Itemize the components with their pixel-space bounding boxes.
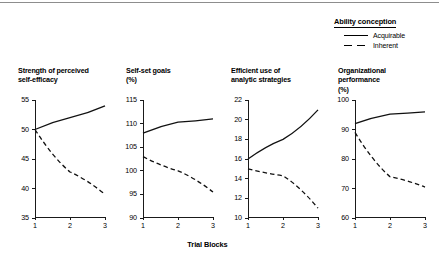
x-tick-label: 1 bbox=[348, 221, 362, 230]
y-tick-label: 60 bbox=[323, 213, 349, 222]
panel-title-line1: Strength of perceived bbox=[18, 66, 114, 75]
x-axis-title-text: Trial Blocks bbox=[187, 240, 227, 249]
panel-self-efficacy: Strength of perceived self-efficacy 3540… bbox=[0, 0, 110, 262]
y-tick-label: 105 bbox=[111, 142, 137, 151]
line-inherent bbox=[248, 169, 318, 208]
y-tick-label: 100 bbox=[111, 166, 137, 175]
panel-title-line1: Organizational bbox=[338, 66, 434, 75]
x-tick-label: 1 bbox=[241, 221, 255, 230]
x-tick-label: 2 bbox=[383, 221, 397, 230]
y-tick-label: 14 bbox=[216, 174, 242, 183]
panel-title-line2: (%) bbox=[126, 75, 222, 84]
line-acquirable bbox=[143, 119, 213, 133]
x-tick-label: 2 bbox=[276, 221, 290, 230]
y-tick-label: 35 bbox=[3, 213, 29, 222]
panel-title-analytic-strategies: Efficient use of analytic strategies bbox=[231, 66, 327, 85]
plot-area-organizational-performance: 60708090100 123 bbox=[355, 100, 425, 218]
line-acquirable bbox=[35, 106, 105, 130]
y-tick-label: 18 bbox=[216, 134, 242, 143]
panel-title-line2: self-efficacy bbox=[18, 75, 114, 84]
panel-title-organizational-performance: Organizational performance (%) bbox=[338, 66, 434, 94]
y-tick-label: 110 bbox=[111, 119, 137, 128]
x-tick-label: 1 bbox=[136, 221, 150, 230]
y-tick-label: 100 bbox=[323, 95, 349, 104]
x-tick-label: 3 bbox=[418, 221, 432, 230]
y-tick-label: 22 bbox=[216, 95, 242, 104]
line-inherent bbox=[35, 130, 105, 195]
panel-title-line3: (%) bbox=[338, 85, 434, 94]
y-tick-label: 80 bbox=[323, 154, 349, 163]
y-tick-label: 55 bbox=[3, 95, 29, 104]
y-tick-label: 45 bbox=[3, 154, 29, 163]
y-tick-label: 20 bbox=[216, 115, 242, 124]
y-tick-label: 12 bbox=[216, 193, 242, 202]
x-tick-label: 2 bbox=[171, 221, 185, 230]
x-tick-label: 2 bbox=[63, 221, 77, 230]
y-tick-label: 95 bbox=[111, 189, 137, 198]
y-tick-label: 90 bbox=[323, 125, 349, 134]
x-tick-label: 1 bbox=[28, 221, 42, 230]
line-acquirable bbox=[355, 112, 425, 124]
panel-organizational-performance: Organizational performance (%) 607080901… bbox=[320, 0, 430, 262]
line-acquirable bbox=[248, 110, 318, 159]
panel-title-line2: analytic strategies bbox=[231, 75, 327, 84]
x-axis-title: Trial Blocks bbox=[0, 240, 439, 249]
series-lines bbox=[35, 100, 105, 218]
y-tick-label: 115 bbox=[111, 95, 137, 104]
y-tick-label: 90 bbox=[111, 213, 137, 222]
series-lines bbox=[248, 100, 318, 218]
line-inherent bbox=[143, 157, 213, 192]
plot-area-self-efficacy: 3540455055 123 bbox=[35, 100, 105, 218]
figure-canvas: Ability conception Acquirable Inherent S… bbox=[0, 0, 439, 262]
panel-title-line1: Self-set goals bbox=[126, 66, 222, 75]
y-tick-label: 10 bbox=[216, 213, 242, 222]
y-tick-label: 40 bbox=[3, 184, 29, 193]
y-tick-label: 16 bbox=[216, 154, 242, 163]
plot-area-analytic-strategies: 10121416182022 123 bbox=[248, 100, 318, 218]
y-tick-label: 50 bbox=[3, 125, 29, 134]
line-inherent bbox=[355, 132, 425, 187]
panel-self-set-goals: Self-set goals (%) 9095100105110115 123 bbox=[108, 0, 218, 262]
plot-area-self-set-goals: 9095100105110115 123 bbox=[143, 100, 213, 218]
panel-title-self-set-goals: Self-set goals (%) bbox=[126, 66, 222, 85]
y-tick-label: 70 bbox=[323, 184, 349, 193]
series-lines bbox=[143, 100, 213, 218]
panel-analytic-strategies: Efficient use of analytic strategies 101… bbox=[213, 0, 323, 262]
panel-title-self-efficacy: Strength of perceived self-efficacy bbox=[18, 66, 114, 85]
series-lines bbox=[355, 100, 425, 218]
panel-title-line1: Efficient use of bbox=[231, 66, 327, 75]
panel-title-line2: performance bbox=[338, 75, 434, 84]
